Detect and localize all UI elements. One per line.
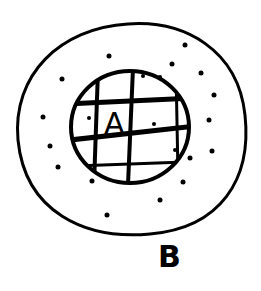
outer-set-label-b: B xyxy=(158,239,181,274)
inner-set-a xyxy=(68,68,195,185)
venn-diagram xyxy=(0,0,261,291)
inner-set-label-a: A xyxy=(104,106,125,141)
